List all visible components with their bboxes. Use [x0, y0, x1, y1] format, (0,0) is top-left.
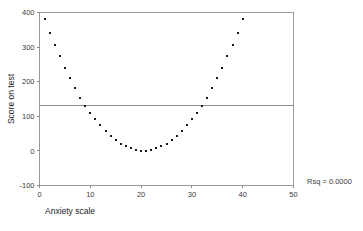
data-point	[115, 139, 117, 141]
y-axis-ticks: -1000100200300400	[19, 8, 39, 190]
data-point	[74, 87, 76, 89]
x-axis-title: Anxiety scale	[45, 206, 95, 216]
data-point	[89, 112, 91, 114]
data-point	[181, 130, 183, 132]
data-point	[171, 139, 173, 141]
data-point	[160, 145, 162, 147]
x-tick-label: 0	[37, 190, 41, 199]
x-tick-label: 40	[239, 190, 247, 199]
data-point	[191, 118, 193, 120]
data-point	[201, 105, 203, 107]
data-point	[49, 32, 51, 34]
data-point	[140, 150, 142, 152]
data-point	[211, 87, 213, 89]
x-tick-label: 50	[289, 190, 297, 199]
data-point	[84, 105, 86, 107]
x-tick-label: 30	[188, 190, 196, 199]
data-point	[99, 124, 101, 126]
data-point	[186, 124, 188, 126]
x-axis-ticks: 01020304050	[37, 186, 297, 199]
y-tick-label: 300	[22, 43, 35, 52]
data-point	[59, 55, 61, 57]
data-point	[145, 150, 147, 152]
data-point	[237, 32, 239, 34]
data-point	[135, 149, 137, 151]
data-point-group	[44, 18, 244, 151]
data-point	[54, 44, 56, 46]
data-point	[79, 97, 81, 99]
y-tick-label: 400	[22, 8, 35, 17]
data-point	[125, 145, 127, 147]
data-point	[166, 143, 168, 145]
data-point	[110, 135, 112, 137]
data-point	[94, 118, 96, 120]
plot-canvas: -1000100200300400 01020304050 Score on t…	[0, 0, 363, 231]
rsq-annotation: Rsq = 0.0000	[307, 177, 352, 186]
y-tick-label: -100	[19, 181, 34, 190]
plot-frame	[40, 13, 294, 186]
data-point	[120, 143, 122, 145]
x-tick-label: 10	[86, 190, 94, 199]
data-point	[206, 97, 208, 99]
data-point	[64, 67, 66, 69]
data-point	[44, 18, 46, 20]
scatter-plot-figure: -1000100200300400 01020304050 Score on t…	[0, 0, 363, 231]
data-point	[221, 67, 223, 69]
data-point	[196, 112, 198, 114]
y-tick-label: 0	[30, 147, 34, 156]
data-point	[69, 77, 71, 79]
data-point	[232, 44, 234, 46]
x-tick-label: 20	[137, 190, 145, 199]
data-point	[105, 130, 107, 132]
data-point	[176, 135, 178, 137]
data-point	[150, 149, 152, 151]
data-point	[130, 147, 132, 149]
y-axis-title: Score on test	[6, 73, 16, 124]
data-point	[226, 55, 228, 57]
data-point	[155, 147, 157, 149]
y-tick-label: 100	[22, 112, 35, 121]
data-point	[242, 18, 244, 20]
y-tick-label: 200	[22, 77, 35, 86]
data-point	[216, 77, 218, 79]
